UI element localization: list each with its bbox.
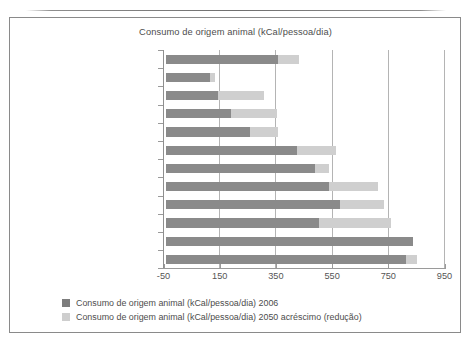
top-divider-rule: [26, 10, 446, 11]
chart-row: MUNDO: [163, 50, 446, 68]
legend-swatch-2050-icon: [62, 313, 70, 321]
bar-segment-2006[interactable]: [166, 109, 231, 118]
bar-segment-2006[interactable]: [166, 146, 297, 155]
y-axis-tick: [158, 123, 163, 124]
y-axis-tick: [158, 159, 163, 160]
bar-segment-2050[interactable]: [406, 255, 417, 264]
bar-segment-2006[interactable]: [166, 91, 218, 100]
y-axis-tick: [158, 68, 163, 69]
y-axis-tick: [158, 50, 163, 51]
chart-row: União Europeia: [163, 250, 446, 268]
x-axis-tick: [445, 264, 446, 269]
chart-page: Consumo de origem animal (kCal/pessoa/di…: [0, 0, 471, 341]
bar-segment-2006[interactable]: [166, 55, 278, 64]
chart-row: Brasil: [163, 196, 446, 214]
legend-item: Consumo de origem animal (kCal/pessoa/di…: [62, 296, 362, 310]
bar-segment-2050[interactable]: [250, 127, 278, 136]
y-axis-tick: [158, 141, 163, 142]
bar-segment-2050[interactable]: [315, 164, 329, 173]
x-axis-tick-label: 550: [312, 271, 352, 281]
chart-row: Canadá e EUA: [163, 232, 446, 250]
bar-segment-2006[interactable]: [166, 182, 329, 191]
bar-segment-2050[interactable]: [278, 55, 299, 64]
chart-row: Ásia (menos China e Índia): [163, 105, 446, 123]
plot-area: MUNDOÁfrica subsaarianaÍndiaÁsia (menos …: [163, 50, 446, 268]
bar-segment-2006[interactable]: [166, 127, 250, 136]
legend-item: Consumo de origem animal (kCal/pessoa/di…: [62, 310, 362, 324]
chart-row: África subsaariana: [163, 68, 446, 86]
chart-legend: Consumo de origem animal (kCal/pessoa/di…: [62, 296, 362, 324]
chart-row: Antiga União Soviética: [163, 177, 446, 195]
chart-row: Oriente Médio e Norte da África: [163, 123, 446, 141]
bar-segment-2050[interactable]: [329, 182, 378, 191]
legend-label: Consumo de origem animal (kCal/pessoa/di…: [76, 298, 278, 308]
bar-segment-2050[interactable]: [231, 109, 277, 118]
chart-row: América Latina (menos Brasil): [163, 141, 446, 159]
y-axis-tick: [158, 177, 163, 178]
chart-row: Outros OCDE: [163, 159, 446, 177]
x-axis-tick-label: 350: [256, 271, 296, 281]
bar-segment-2050[interactable]: [210, 73, 216, 82]
bar-segment-2050[interactable]: [340, 200, 384, 209]
bar-segment-2006[interactable]: [166, 237, 413, 246]
y-axis-tick: [158, 250, 163, 251]
chart-row: China: [163, 214, 446, 232]
x-axis-tick: [164, 264, 165, 269]
x-axis-tick-label: -50: [144, 271, 184, 281]
bar-segment-2006[interactable]: [166, 164, 315, 173]
bar-segment-2050[interactable]: [218, 91, 264, 100]
y-axis-tick: [158, 268, 163, 269]
bar-segment-2006[interactable]: [166, 73, 210, 82]
y-axis-tick: [158, 232, 163, 233]
legend-swatch-2006-icon: [62, 299, 70, 307]
x-axis-tick: [388, 264, 389, 269]
bar-segment-2050[interactable]: [319, 218, 391, 227]
y-axis-tick: [158, 196, 163, 197]
x-axis-tick: [276, 264, 277, 269]
y-axis-tick: [158, 105, 163, 106]
x-axis-tick-label: 950: [425, 271, 465, 281]
x-axis-tick-label: 150: [200, 271, 240, 281]
y-axis-tick: [158, 86, 163, 87]
x-axis-tick: [220, 264, 221, 269]
y-axis-tick: [158, 214, 163, 215]
bar-segment-2006[interactable]: [166, 255, 406, 264]
chart-row: Índia: [163, 86, 446, 104]
bar-segment-2006[interactable]: [166, 218, 319, 227]
bar-segment-2050[interactable]: [297, 146, 336, 155]
chart-title: Consumo de origem animal (kCal/pessoa/di…: [0, 27, 471, 37]
x-axis-tick: [332, 264, 333, 269]
bar-segment-2006[interactable]: [166, 200, 340, 209]
x-axis-tick-label: 750: [368, 271, 408, 281]
legend-label: Consumo de origem animal (kCal/pessoa/di…: [76, 312, 362, 322]
